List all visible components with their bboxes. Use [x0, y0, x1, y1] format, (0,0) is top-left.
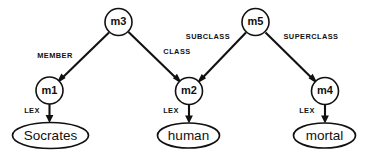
- node-m4-label: m4: [317, 84, 334, 96]
- node-human[interactable]: human: [158, 123, 220, 148]
- edge-lex-socrates-label: LEX: [24, 106, 40, 115]
- edge-lex-socrates: LEX: [24, 104, 53, 123]
- edge-superclass: SUPERCLASS: [266, 32, 339, 84]
- edge-lex-human: LEX: [163, 105, 193, 124]
- edge-superclass-label: SUPERCLASS: [283, 32, 338, 41]
- edge-class-label: CLASS: [163, 47, 190, 56]
- network-canvas: MEMBER CLASS SUBCLASS SUPERCLASS LEX: [0, 0, 368, 157]
- edge-member: MEMBER: [37, 33, 109, 84]
- node-mortal[interactable]: mortal: [294, 123, 356, 148]
- edge-lex-mortal-label: LEX: [299, 106, 315, 115]
- node-m3-label: m3: [111, 15, 127, 27]
- edge-member-label: MEMBER: [37, 51, 73, 60]
- node-m4[interactable]: m4: [312, 78, 339, 105]
- edge-subclass-label: SUBCLASS: [186, 32, 230, 41]
- node-m2-label: m2: [181, 84, 197, 96]
- node-m1-label: m1: [42, 84, 58, 96]
- node-mortal-label: mortal: [306, 128, 344, 143]
- node-m1[interactable]: m1: [36, 77, 63, 104]
- node-socrates[interactable]: Socrates: [13, 123, 89, 149]
- node-m3[interactable]: m3: [105, 9, 132, 36]
- semantic-network-diagram: MEMBER CLASS SUBCLASS SUPERCLASS LEX: [0, 0, 368, 157]
- node-m5-label: m5: [248, 15, 264, 27]
- node-socrates-label: Socrates: [24, 128, 78, 143]
- edge-class-line: [129, 32, 179, 81]
- edge-lex-human-label: LEX: [163, 106, 179, 115]
- edge-subclass: SUBCLASS: [186, 32, 246, 84]
- node-m5[interactable]: m5: [242, 9, 269, 36]
- node-m2[interactable]: m2: [176, 78, 203, 105]
- node-human-label: human: [168, 128, 209, 143]
- edge-class: CLASS: [129, 32, 191, 84]
- edge-lex-mortal: LEX: [299, 105, 329, 124]
